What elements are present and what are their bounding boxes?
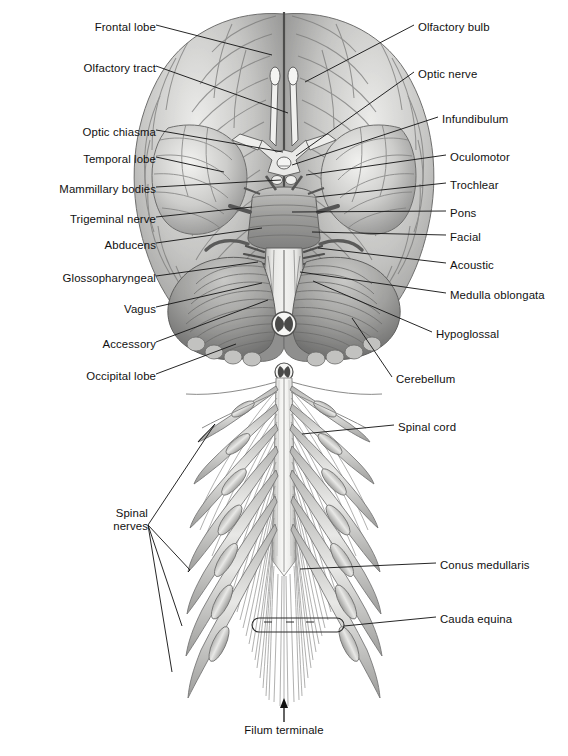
label-trigeminal-nerve: Trigeminal nerve: [70, 213, 156, 226]
label-olfactory-bulb: Olfactory bulb: [418, 21, 490, 34]
label-optic-nerve: Optic nerve: [418, 68, 477, 81]
label-olfactory-tract: Olfactory tract: [84, 62, 156, 75]
label-optic-chiasma: Optic chiasma: [83, 126, 156, 139]
label-frontal-lobe: Frontal lobe: [95, 21, 156, 34]
label-cauda-equina: Cauda equina: [440, 613, 512, 626]
label-facial: Facial: [450, 231, 481, 244]
label-accessory: Accessory: [103, 338, 156, 351]
label-oculomotor: Oculomotor: [450, 151, 510, 164]
label-spinal-nerves-line2: nerves: [113, 520, 148, 533]
label-spinal-nerves-line1: Spinal: [113, 507, 148, 520]
label-vagus: Vagus: [124, 303, 156, 316]
label-trochlear: Trochlear: [450, 179, 499, 192]
label-filum-terminale: Filum terminale: [0, 724, 568, 737]
label-acoustic: Acoustic: [450, 259, 494, 272]
label-hypoglossal: Hypoglossal: [436, 328, 499, 341]
figure-canvas: Frontal lobe Olfactory tract Optic chias…: [0, 0, 568, 756]
label-cerebellum: Cerebellum: [396, 373, 455, 386]
label-abducens: Abducens: [105, 239, 156, 252]
label-mammillary-bodies: Mammillary bodies: [59, 183, 156, 196]
label-temporal-lobe: Temporal lobe: [83, 153, 156, 166]
label-pons: Pons: [450, 207, 476, 220]
label-conus-medullaris: Conus medullaris: [440, 559, 530, 572]
label-occipital-lobe: Occipital lobe: [86, 370, 156, 383]
label-layer: Frontal lobe Olfactory tract Optic chias…: [0, 0, 568, 756]
label-infundibulum: Infundibulum: [442, 113, 508, 126]
label-glossopharyngeal: Glossopharyngeal: [63, 272, 156, 285]
label-spinal-cord: Spinal cord: [398, 421, 456, 434]
label-spinal-nerves: Spinal nerves: [113, 507, 148, 533]
label-medulla-oblongata: Medulla oblongata: [450, 289, 545, 302]
